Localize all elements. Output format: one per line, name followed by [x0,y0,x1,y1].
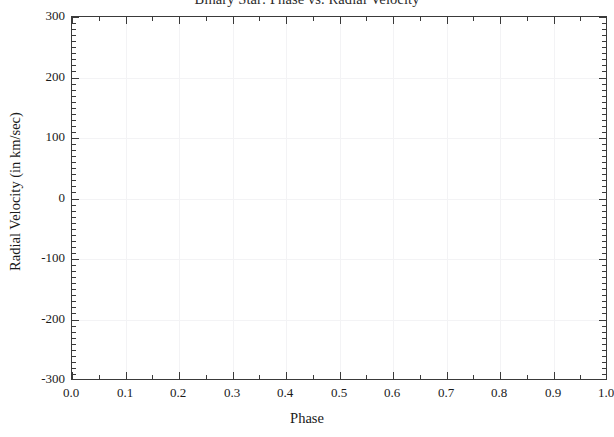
x-tick-label: 0.0 [63,385,79,401]
y-tick-label: 0 [59,190,66,206]
x-tick-label: 0.2 [170,385,186,401]
x-tick-label: 0.1 [117,385,133,401]
x-tick-label: 0.5 [331,385,347,401]
y-tick-label: 300 [46,8,66,24]
x-tick-label: 0.7 [438,385,454,401]
y-axis-label: Radial Velocity (in km/sec) [7,92,24,292]
x-tick-label: 1.0 [598,385,614,401]
chart-title: Binary Star: Phase vs. Radial Velocity [0,0,614,8]
chart-figure: Binary Star: Phase vs. Radial Velocity 0… [0,0,614,437]
x-tick-label: 0.3 [224,385,240,401]
x-axis-label: Phase [0,410,614,427]
x-tick-label: 0.8 [491,385,507,401]
data-series-layer [72,17,606,379]
x-tick-label: 0.6 [384,385,400,401]
y-tick-label: 200 [46,69,66,85]
y-tick-label: -300 [41,371,65,387]
y-tick-label: -200 [41,311,65,327]
plot-area [71,16,607,380]
y-tick-label: -100 [41,250,65,266]
x-tick-label: 0.4 [277,385,293,401]
x-tick-label: 0.9 [545,385,561,401]
y-tick-label: 100 [46,129,66,145]
